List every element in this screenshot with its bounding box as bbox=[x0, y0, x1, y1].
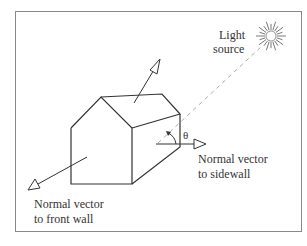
sun-icon bbox=[256, 22, 286, 51]
sun-ray bbox=[275, 41, 279, 46]
light-source-label-line2: source bbox=[213, 42, 244, 56]
front-wall-normal-arrowhead bbox=[28, 179, 40, 190]
sun-core bbox=[266, 31, 276, 41]
theta-label: θ bbox=[183, 129, 188, 141]
theta-angle-arc bbox=[168, 133, 176, 144]
sun-ray bbox=[266, 42, 269, 51]
sun-ray bbox=[260, 38, 266, 40]
front-wall-outline bbox=[71, 97, 132, 184]
sun-ray bbox=[277, 32, 283, 34]
sun-ray bbox=[264, 41, 268, 46]
roof-normal-arrowhead bbox=[150, 59, 160, 74]
side-wall-outline bbox=[132, 114, 180, 184]
sun-ray bbox=[273, 22, 276, 31]
sun-ray bbox=[260, 32, 266, 34]
incidence-angle-diagram: θ Light source Normal vector to sidewall… bbox=[0, 0, 307, 246]
light-source-label-line1: Light bbox=[219, 28, 246, 42]
sun-ray bbox=[277, 38, 283, 40]
house bbox=[71, 94, 180, 184]
sun-ray bbox=[266, 22, 269, 31]
sidewall-normal-vector bbox=[156, 139, 206, 149]
front-wall-normal-label-line1: Normal vector bbox=[34, 197, 104, 211]
sidewall-normal-arrowhead bbox=[194, 139, 206, 149]
front-wall-normal-vector bbox=[28, 157, 87, 190]
sun-ray bbox=[264, 26, 268, 31]
sidewall-normal-label-line2: to sidewall bbox=[198, 167, 251, 181]
sun-ray bbox=[275, 26, 279, 31]
roof-normal-vector bbox=[134, 59, 160, 103]
sun-ray bbox=[273, 42, 276, 51]
sidewall-normal-label-line1: Normal vector bbox=[198, 152, 268, 166]
roof-outline bbox=[101, 94, 180, 128]
light-ray-dashed-line bbox=[158, 46, 262, 143]
front-wall-normal-label-line2: to front wall bbox=[34, 212, 94, 226]
